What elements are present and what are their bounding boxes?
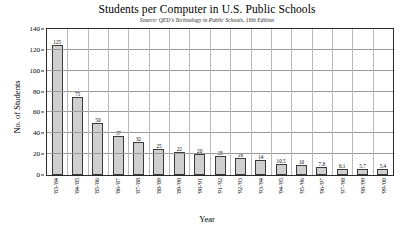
x-axis-slot: '90-'91 [189,177,209,213]
grid-line [47,111,393,112]
y-axis-tick-label: 60 [33,108,40,116]
bar[interactable]: 18 [215,156,226,175]
x-axis-separator [67,29,68,175]
y-axis-tick-label: 40 [33,129,40,137]
chart-subtitle-source: Source: QED's Technology in Public Schoo… [0,17,414,23]
y-axis-tick-label: 20 [33,150,40,158]
bar-value-label: 50 [95,117,100,123]
x-axis-slot: '93-'94 [251,177,271,213]
x-axis-separator [230,29,231,175]
x-axis-tick-label: '86-'87 [115,178,121,194]
x-axis-slot: '86-'87 [107,177,127,213]
x-axis-tick-label: '94-'95 [278,178,284,194]
bar[interactable]: 5.4 [377,169,388,175]
x-axis-separator [210,29,211,175]
x-axis-slot: '91-'92 [210,177,230,213]
x-axis-slot: '84-'85 [66,177,86,213]
bar-value-label: 10.5 [277,158,286,164]
x-axis-separator [108,29,109,175]
bar[interactable]: 22 [174,152,185,175]
x-axis-tick-label: '93-'94 [258,178,264,194]
x-axis-separator [149,29,150,175]
x-axis-tick-label: '98-'99 [360,178,366,194]
x-axis-separator [189,29,190,175]
y-axis-tick-label: 0 [37,171,41,179]
chart-title: Students per Computer in U.S. Public Sch… [0,3,414,15]
x-axis-separator [332,29,333,175]
x-axis-separator [251,29,252,175]
x-axis-tick-label: '87-'88 [135,178,141,194]
bar-value-label: 125 [53,39,61,45]
x-axis-slot: '98-'99 [353,177,373,213]
bar-value-label: 25 [156,143,161,149]
bar[interactable]: 10 [296,165,307,175]
bar-value-label: 6.1 [339,163,345,169]
x-axis-separator [88,29,89,175]
grid-line [47,49,393,50]
x-axis-slot: '95-'96 [292,177,312,213]
bar[interactable]: 7.8 [316,167,327,175]
bar-value-label: 10 [299,159,304,165]
x-axis-tick-label: '88-'89 [156,178,162,194]
bar[interactable]: 50 [92,123,103,175]
x-axis-tick-label: '90-'91 [197,178,203,194]
x-axis-separator [352,29,353,175]
x-axis-tick-label: '91-'92 [217,178,223,194]
x-axis-separator [312,29,313,175]
bar-value-label: 22 [177,146,182,152]
bar-value-label: 32 [136,136,141,142]
grid-line [47,70,393,71]
x-axis-tick-label: '85-'86 [94,178,100,194]
x-axis-tick-label: '99-'00 [381,178,387,194]
y-axis: No. of Students 020406080100120140 [0,28,44,176]
x-axis-slot: '89-'90 [169,177,189,213]
y-axis-tick-label: 140 [30,25,41,33]
y-axis-tick-mark [41,112,44,113]
bar[interactable]: 10.5 [276,164,287,175]
x-axis-slot: '87-'88 [128,177,148,213]
x-axis-slot: '83-'84 [46,177,66,213]
bar-value-label: 75 [75,91,80,97]
y-axis-tick-mark [41,29,44,30]
x-axis-tick-label: '96-'97 [319,178,325,194]
x-axis: '83-'84'84-'85'85-'86'86-'87'87-'88'88-'… [46,177,394,213]
plot-area: 1257550373225222018161410.5107.86.15.75.… [46,28,394,176]
bar[interactable]: 20 [194,154,205,175]
bar[interactable]: 125 [52,45,63,175]
x-axis-separator [291,29,292,175]
y-axis-tick-label: 120 [30,46,41,54]
x-axis-slot: '96-'97 [312,177,332,213]
bar-value-label: 5.4 [380,163,386,169]
chart-container: Students per Computer in U.S. Public Sch… [0,0,414,232]
grid-line [47,91,393,92]
y-axis-tick-mark [41,175,44,176]
bar[interactable]: 14 [255,160,266,175]
x-axis-separator [128,29,129,175]
x-axis-separator [271,29,272,175]
bar-value-label: 5.7 [359,163,365,169]
bar[interactable]: 16 [235,158,246,175]
y-axis-title: No. of Students [12,52,22,162]
y-axis-tick-mark [41,70,44,71]
x-axis-slot: '97-'98 [333,177,353,213]
y-axis-tick-mark [41,91,44,92]
bar[interactable]: 37 [113,136,124,175]
grid-line [47,132,393,133]
grid-line [47,153,393,154]
x-axis-tick-label: '83-'84 [53,178,59,194]
bar[interactable]: 75 [72,97,83,175]
x-axis-slot: '85-'86 [87,177,107,213]
x-axis-tick-label: '89-'90 [176,178,182,194]
bar[interactable]: 32 [133,142,144,175]
x-axis-tick-label: '97-'98 [340,178,346,194]
x-axis-tick-label: '84-'85 [74,178,80,194]
x-axis-title: Year [0,214,414,224]
bar[interactable]: 6.1 [337,169,348,175]
x-axis-slot: '88-'89 [148,177,168,213]
x-axis-slot: '94-'95 [271,177,291,213]
bar[interactable]: 5.7 [357,169,368,175]
y-axis-tick-label: 100 [30,67,41,75]
y-axis-tick-label: 80 [33,88,40,96]
y-axis-tick-mark [41,49,44,50]
y-axis-tick-mark [41,154,44,155]
